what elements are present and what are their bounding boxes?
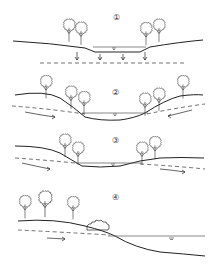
flow-arrow-right-icon xyxy=(22,163,50,171)
flow-arrow-right-icon xyxy=(47,237,65,241)
panel-4: ④ xyxy=(18,191,205,256)
arrow-down-icon xyxy=(143,52,147,60)
tree-icon xyxy=(67,196,79,219)
tree-icon xyxy=(39,191,53,217)
flow-arrow-right-icon xyxy=(160,169,185,174)
water-table-line xyxy=(18,230,110,235)
tree-icon xyxy=(78,91,90,114)
tree-icon xyxy=(75,22,87,45)
tree-icon xyxy=(19,195,31,218)
flow-arrow-left-icon xyxy=(168,110,192,118)
arrow-down-icon xyxy=(75,52,79,60)
panel-1-label: ① xyxy=(113,13,120,22)
arrow-down-icon xyxy=(121,54,125,60)
water-table-line-right xyxy=(140,164,205,169)
groundwater-stream-diagram: ① ② ③ xyxy=(0,0,217,267)
water-table-line-left xyxy=(12,106,85,114)
tree-icon xyxy=(153,88,165,111)
tree-icon xyxy=(149,136,161,159)
ground-surface xyxy=(15,93,203,120)
water-table-line-left xyxy=(15,158,75,163)
panel-3: ③ xyxy=(15,134,205,174)
ground-surface xyxy=(15,146,204,167)
ground-surface xyxy=(13,40,203,52)
panel-2-label: ② xyxy=(112,88,119,97)
tree-icon xyxy=(63,19,75,42)
water-table-line-right xyxy=(147,104,205,114)
arrow-down-icon xyxy=(98,54,102,60)
panel-3-label: ③ xyxy=(112,136,119,145)
flow-arrow-right-icon xyxy=(25,112,55,119)
water-level-icon xyxy=(113,114,117,116)
panel-2: ② xyxy=(12,75,205,120)
shrub-icon xyxy=(87,220,109,230)
water-level-icon xyxy=(112,48,116,50)
panel-4-label: ④ xyxy=(112,193,119,202)
panel-1: ① xyxy=(13,13,203,63)
ground-surface xyxy=(18,220,205,256)
tree-icon xyxy=(140,22,152,45)
tree-icon xyxy=(153,19,165,42)
water-level-icon xyxy=(169,238,174,240)
water-level-icon xyxy=(111,164,115,166)
